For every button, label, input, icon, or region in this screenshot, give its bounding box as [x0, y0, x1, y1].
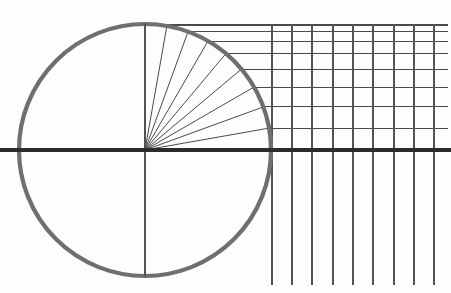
construction-canvas	[0, 0, 451, 293]
sine-construction-figure	[0, 0, 451, 293]
